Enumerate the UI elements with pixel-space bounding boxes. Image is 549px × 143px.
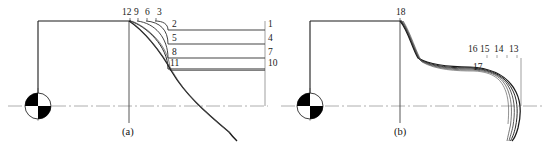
- caption-panel-b: (b): [394, 126, 406, 137]
- figure-drawing: [0, 0, 549, 143]
- label-15-panel-b: 15: [480, 45, 490, 55]
- label-16-panel-b: 16: [468, 45, 478, 55]
- label-18-panel-b: 18: [396, 8, 406, 18]
- label-14-panel-b: 14: [494, 45, 504, 55]
- label-11-panel-a: 11: [170, 59, 179, 69]
- label-5-panel-a: 5: [172, 34, 177, 44]
- profile-curve-12-companion: [132, 21, 266, 71]
- label-4-panel-a: 4: [268, 34, 273, 44]
- label-10-panel-a: 10: [268, 59, 278, 69]
- profile-curve-15-b: [402, 21, 515, 141]
- outer-boundary-curve-a: [129, 21, 237, 141]
- label-1-panel-a: 1: [268, 20, 273, 30]
- label-2-panel-a: 2: [172, 20, 177, 30]
- label-12-panel-a: 12: [122, 8, 132, 18]
- profile-curve-12-11-10: [130, 21, 265, 69]
- centering-target-icon-a: [25, 93, 51, 119]
- label-17-panel-b: 17: [473, 63, 483, 73]
- label-7-panel-a: 7: [268, 48, 273, 58]
- label-8-panel-a: 8: [172, 48, 177, 58]
- centering-target-icon-b: [297, 93, 323, 119]
- label-3-panel-a: 3: [157, 8, 162, 18]
- outer-boundary-curve-a-shadow: [131, 21, 231, 133]
- label-9-panel-a: 9: [134, 8, 139, 18]
- figure-container: 12 9 6 3 2 5 8 11 1 4 7 10 18 16 15 14 1…: [0, 0, 549, 143]
- panel-b-drawing: [281, 18, 543, 141]
- label-13-panel-b: 13: [509, 45, 519, 55]
- caption-panel-a: (a): [122, 126, 134, 137]
- panel-a-drawing: [8, 18, 268, 141]
- profile-curve-16-b: [402, 21, 511, 141]
- label-6-panel-a: 6: [145, 8, 150, 18]
